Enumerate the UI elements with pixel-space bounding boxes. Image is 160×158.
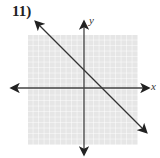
grid: [28, 35, 138, 145]
y-axis-label: y: [89, 14, 94, 26]
coordinate-plane: [0, 0, 160, 158]
x-axis-label: x: [151, 80, 156, 92]
